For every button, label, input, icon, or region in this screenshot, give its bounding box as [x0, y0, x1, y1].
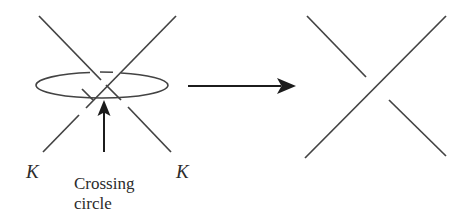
- caption-pointer-arrow: [98, 100, 111, 152]
- strand-nw-se-upper-segment: [39, 16, 101, 80]
- label-k-left: K: [25, 161, 40, 182]
- right-strand-nw-se-lower: [389, 100, 446, 156]
- strand-nw-se-lower-segment: [128, 107, 171, 152]
- caption-circle: circle: [74, 194, 112, 213]
- right-diagram-group: [305, 16, 446, 158]
- right-strand-sw-ne: [305, 16, 446, 158]
- strand-sw-ne: [43, 16, 176, 152]
- crossing-circle-back-arc-right: [121, 73, 168, 85]
- crossing-circle-back-arc-left: [36, 73, 90, 86]
- label-k-right: K: [175, 161, 190, 182]
- strand-sw-ne-upper-segment: [86, 16, 176, 108]
- crossing-circle: [36, 72, 168, 98]
- knot-theory-figure: K K Crossing circle: [0, 0, 464, 213]
- caption-crossing: Crossing: [74, 174, 135, 193]
- left-diagram-group: [36, 16, 176, 152]
- figure-canvas: K K Crossing circle: [0, 0, 464, 213]
- strand-sw-ne-lower-segment: [43, 115, 79, 152]
- right-strand-nw-se-upper: [307, 16, 366, 77]
- transform-arrow: [188, 78, 296, 94]
